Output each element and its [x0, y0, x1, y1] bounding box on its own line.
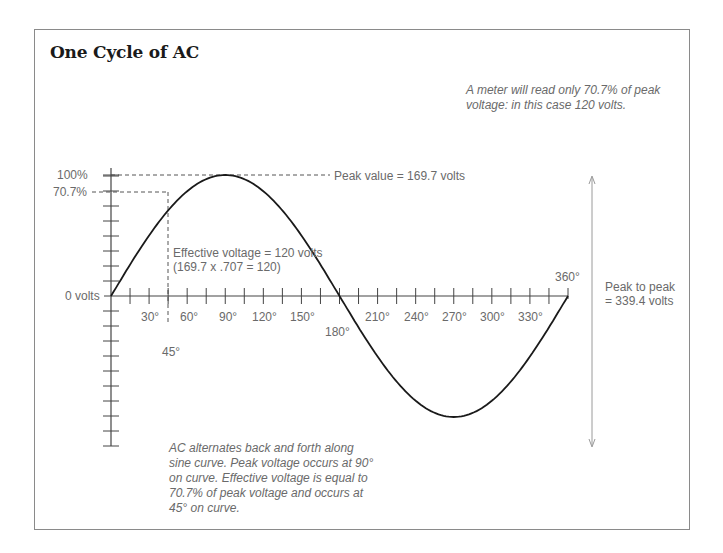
peak-to-peak-line-2: = 339.4 volts — [605, 294, 675, 308]
x-label-60: 60° — [180, 310, 198, 324]
explanation-note: AC alternates back and forth along sine … — [169, 441, 373, 516]
x-label-90: 90° — [219, 310, 237, 324]
peak-value-annotation: Peak value = 169.7 volts — [334, 169, 465, 183]
x-label-240: 240° — [404, 310, 429, 324]
effective-voltage-annotation: Effective voltage = 120 volts (169.7 x .… — [173, 246, 323, 274]
peak-to-peak-line-1: Peak to peak — [605, 280, 675, 294]
y-label-zero: 0 volts — [65, 289, 100, 303]
explanation-line: 45° on curve. — [169, 501, 373, 516]
x-label-300: 300° — [480, 310, 505, 324]
x-label-180: 180° — [325, 325, 350, 339]
y-label-100: 100% — [57, 168, 88, 182]
x-label-210: 210° — [365, 310, 390, 324]
peak-to-peak-annotation: Peak to peak = 339.4 volts — [605, 280, 675, 308]
x-label-360: 360° — [555, 270, 580, 284]
x-label-330: 330° — [518, 310, 543, 324]
explanation-line: AC alternates back and forth along — [169, 441, 373, 456]
y-label-70-7: 70.7% — [53, 185, 87, 199]
explanation-line: on curve. Effective voltage is equal to — [169, 471, 373, 486]
explanation-line: 70.7% of peak voltage and occurs at — [169, 486, 373, 501]
x-label-120: 120° — [252, 310, 277, 324]
effective-line-2: (169.7 x .707 = 120) — [173, 260, 323, 274]
effective-line-1: Effective voltage = 120 volts — [173, 246, 323, 260]
x-label-45: 45° — [162, 345, 180, 359]
x-label-270: 270° — [442, 310, 467, 324]
x-label-150: 150° — [290, 310, 315, 324]
explanation-line: sine curve. Peak voltage occurs at 90° — [169, 456, 373, 471]
x-label-30: 30° — [141, 310, 159, 324]
